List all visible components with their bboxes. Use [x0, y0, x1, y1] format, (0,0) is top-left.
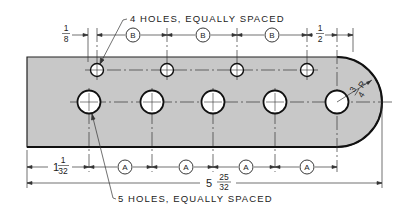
svg-text:A: A [243, 163, 249, 172]
dim-label-a: A [300, 160, 314, 174]
svg-text:A: A [122, 163, 128, 172]
dim-label-b: B [265, 28, 279, 42]
top-dimension-line [72, 34, 353, 37]
svg-text:1: 1 [318, 23, 323, 33]
svg-text:25: 25 [219, 172, 229, 182]
svg-text:32: 32 [58, 166, 68, 176]
dim-label-a: A [239, 160, 253, 174]
svg-text:8: 8 [64, 34, 69, 44]
dim-label-a: A [179, 160, 193, 174]
svg-text:B: B [269, 31, 274, 40]
dim-label-b: B [196, 28, 210, 42]
dim-one-half: 1 2 [316, 23, 324, 44]
overall-dimension-line [27, 182, 382, 185]
svg-text:B: B [200, 31, 205, 40]
dim-one-eighth: 1 8 [62, 23, 70, 44]
svg-text:A: A [304, 163, 310, 172]
dim-one-and-one-thirtysecond: 1 1 32 [53, 155, 69, 176]
dim-overall-length: 5 25 32 [206, 172, 231, 192]
svg-text:1: 1 [61, 155, 66, 165]
note-5-holes: 5 HOLES, EQUALLY SPACED [118, 193, 273, 204]
svg-text:B: B [130, 31, 135, 40]
note-4-holes: 4 HOLES, EQUALLY SPACED [130, 13, 285, 24]
svg-text:5: 5 [206, 177, 212, 189]
svg-text:2: 2 [318, 34, 323, 44]
engineering-drawing: B B B 1 8 1 2 4 HOLES, EQUALLY SPACED 3 … [0, 0, 397, 215]
svg-text:A: A [183, 163, 189, 172]
svg-text:32: 32 [219, 182, 229, 192]
dim-label-a: A [118, 160, 132, 174]
svg-text:1: 1 [64, 23, 69, 33]
dim-label-b: B [126, 28, 140, 42]
